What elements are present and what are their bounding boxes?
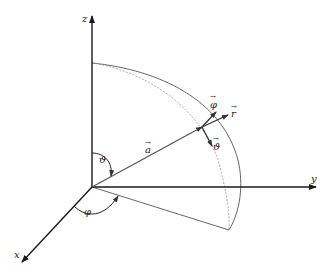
unit-r-arrow: → [231, 103, 237, 111]
position-vector-a [92, 127, 202, 187]
spherical-coordinates-diagram: z y x a → r → φ → ϑ → ϑ φ [0, 0, 330, 280]
unit-vector-phi [202, 112, 216, 127]
vector-a-arrow: → [145, 139, 151, 147]
unit-vector-theta [202, 127, 212, 146]
z-axis-label: z [81, 13, 88, 24]
dashed-arc [92, 63, 229, 230]
x-axis-label: x [14, 249, 20, 260]
diagram-svg: z y x a → r → φ → ϑ → ϑ φ [0, 0, 330, 280]
unit-phi-arrow: → [210, 93, 216, 101]
polar-angle-label: ϑ [99, 154, 106, 165]
y-axis-label: y [310, 173, 317, 184]
azimuth-angle-label: φ [84, 206, 91, 217]
xy-projection-line [92, 187, 229, 230]
x-axis [22, 187, 92, 262]
unit-theta-arrow: → [213, 135, 219, 143]
